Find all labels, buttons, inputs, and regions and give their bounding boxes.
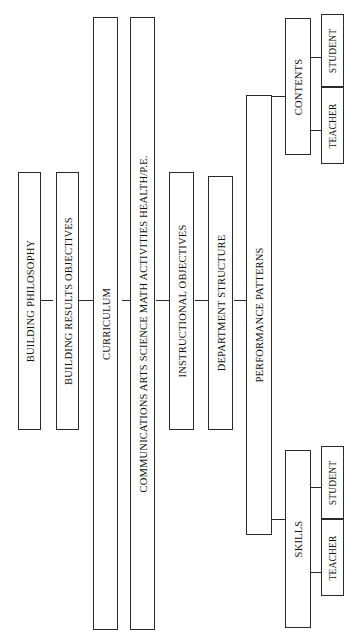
node-contents-student[interactable]: STUDENT (321, 14, 344, 87)
node-contents-teacher[interactable]: TEACHER (321, 87, 344, 164)
node-building-philosophy[interactable]: BUILDING PHILOSOPHY (18, 172, 41, 430)
node-subject-areas-label: COMMUNICATIONS ARTS SCIENCE MATH ACTIVIT… (137, 155, 148, 492)
node-contents-student-label: STUDENT (328, 28, 338, 73)
node-building-results-objectives-label: BUILDING RESULTS OBJECTIVES (62, 217, 73, 385)
node-skills-student-label: STUDENT (328, 460, 338, 505)
node-department-structure[interactable]: DEPARTMENT STRUCTURE (208, 176, 233, 430)
connector-instructional-to-department (195, 300, 208, 301)
node-contents[interactable]: CONTENTS (285, 18, 311, 155)
node-skills-student[interactable]: STUDENT (321, 446, 344, 519)
node-performance-patterns-label: PERFORMANCE PATTERNS (254, 247, 265, 382)
node-performance-patterns[interactable]: PERFORMANCE PATTERNS (246, 95, 272, 535)
node-instructional-objectives-label: INSTRUCTIONAL OBJECTIVES (176, 225, 187, 378)
node-curriculum-label: CURRICULUM (100, 287, 111, 359)
node-instructional-objectives[interactable]: INSTRUCTIONAL OBJECTIVES (169, 172, 194, 430)
node-skills-label: SKILLS (293, 521, 304, 558)
connector-curriculum-to-subjects (122, 300, 130, 301)
connector-contents-to-teacher (311, 130, 321, 131)
node-contents-teacher-label: TEACHER (328, 103, 338, 148)
org-chart-diagram: BUILDING PHILOSOPHY BUILDING RESULTS OBJ… (0, 0, 354, 643)
node-department-structure-label: DEPARTMENT STRUCTURE (215, 235, 226, 372)
connector-performance-to-contents (272, 96, 285, 97)
node-building-philosophy-label: BUILDING PHILOSOPHY (24, 240, 35, 363)
node-subject-areas[interactable]: COMMUNICATIONS ARTS SCIENCE MATH ACTIVIT… (130, 17, 155, 630)
connector-department-to-performance (234, 300, 246, 301)
connector-contents-to-student (311, 57, 321, 58)
node-building-results-objectives[interactable]: BUILDING RESULTS OBJECTIVES (56, 172, 79, 430)
connector-performance-to-skills (272, 519, 285, 520)
connector-results-to-curriculum (79, 300, 93, 301)
node-curriculum[interactable]: CURRICULUM (93, 17, 118, 630)
node-skills-teacher-label: TEACHER (328, 535, 338, 580)
node-skills[interactable]: SKILLS (285, 450, 311, 628)
connector-subjects-to-instructional (156, 300, 169, 301)
node-skills-teacher[interactable]: TEACHER (321, 519, 344, 596)
connector-skills-to-student (311, 487, 321, 488)
node-contents-label: CONTENTS (293, 58, 304, 114)
connector-skills-to-teacher (311, 572, 321, 573)
connector-philosophy-to-results (40, 300, 53, 301)
